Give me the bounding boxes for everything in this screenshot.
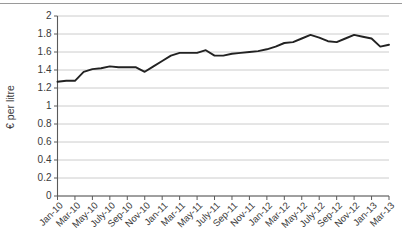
y-axis-tick-label: 0.2 — [38, 172, 52, 183]
y-axis-tick-label: 2 — [46, 10, 52, 21]
y-axis-tick-label: 1.6 — [38, 46, 52, 57]
price-series-line — [58, 35, 390, 82]
y-axis-tick-label: 1.8 — [38, 28, 52, 39]
x-axis-tick-labels-group: Jan-10Mar-10May-10July-10Sep-10Nov-10Jan… — [37, 200, 397, 230]
y-axis-tick-label: 1.2 — [38, 82, 52, 93]
y-axis-tick-label: 1.4 — [38, 64, 52, 75]
fuel-price-line-chart: 00.20.40.60.811.21.41.61.82 Jan-10Mar-10… — [0, 0, 402, 248]
x-axis-ticks-group — [58, 196, 390, 200]
y-axis-tick-label: 0.4 — [38, 154, 52, 165]
y-axis-tick-label: 1 — [46, 100, 52, 111]
y-axis-tick-labels-group: 00.20.40.60.811.21.41.61.82 — [38, 10, 52, 201]
y-axis-tick-label: 0 — [46, 190, 52, 201]
gridlines-group — [58, 16, 390, 196]
y-axis-tick-label: 0.8 — [38, 118, 52, 129]
chart-page: 00.20.40.60.811.21.41.61.82 Jan-10Mar-10… — [0, 0, 402, 248]
y-axis-tick-label: 0.6 — [38, 136, 52, 147]
y-axis-title: € per litre — [4, 85, 16, 129]
